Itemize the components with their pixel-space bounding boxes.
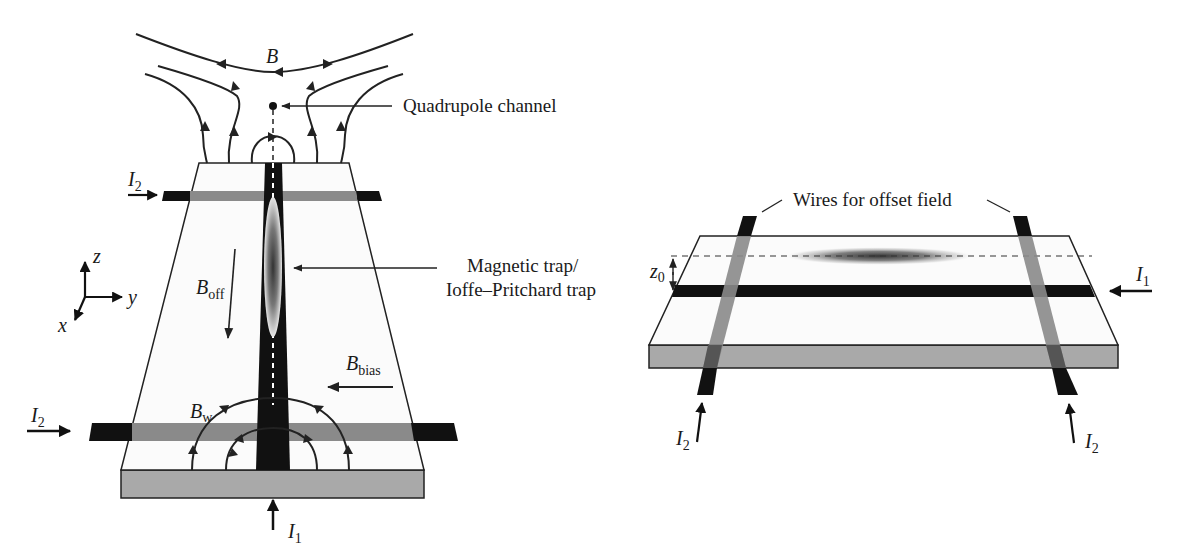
i1-label: I1 — [287, 520, 302, 546]
trap-label-line2: Ioffe–Pritchard trap — [446, 279, 596, 300]
i2-top-label: I2 — [127, 168, 142, 194]
upper-i2-wire-right-end — [356, 191, 382, 201]
trap-label-line1: Magnetic trap/ — [467, 255, 579, 276]
field-label-b: B — [266, 45, 278, 67]
left-substrate-side — [121, 470, 424, 498]
quadrupole-center-dot — [269, 102, 277, 110]
right-i2-right-arrow — [1069, 404, 1074, 443]
right-i2-left-label: I2 — [675, 427, 690, 453]
magnetic-trap-cloud — [264, 197, 282, 337]
wires-offset-label: Wires for offset field — [793, 189, 952, 210]
right-i1-label: I1 — [1135, 263, 1150, 289]
lower-i2-wire-left-end — [89, 423, 136, 441]
i2-bottom-label: I2 — [30, 404, 45, 430]
upper-i2-wire-left-end — [162, 191, 192, 201]
right-offset-wire-bottom — [1052, 368, 1078, 395]
axis-z-label: z — [92, 245, 101, 267]
right-chip-panel: Wires for offset field z0 I1 I2 I2 — [649, 189, 1152, 456]
axis-x-label: x — [57, 314, 67, 336]
right-i2-left-arrow — [697, 403, 702, 442]
left-offset-wire-top — [737, 216, 757, 236]
atom-cloud — [784, 247, 974, 265]
lower-i2-wire-right-end — [411, 423, 458, 441]
wires-leader-left — [762, 200, 782, 212]
right-offset-wire-top — [1013, 216, 1032, 236]
right-i2-right-label: I2 — [1084, 430, 1099, 456]
z0-label: z0 — [649, 260, 665, 285]
coordinate-axes — [75, 262, 122, 320]
atom-chip-diagram: B Quadrupole channel Magnetic trap/ Ioff… — [0, 0, 1177, 558]
left-chip-panel: B Quadrupole channel Magnetic trap/ Ioff… — [27, 34, 596, 546]
left-offset-wire-bottom — [697, 368, 717, 395]
quadrupole-channel-label: Quadrupole channel — [403, 95, 557, 116]
wires-leader-right — [987, 200, 1010, 212]
axis-y-label: y — [126, 286, 137, 309]
